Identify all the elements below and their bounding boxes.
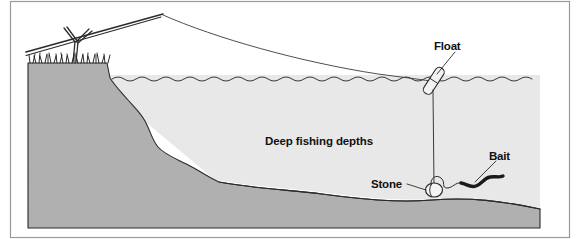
bait-label: Bait [489,150,510,162]
float-label: Float [434,40,461,52]
diagram-canvas: Float Bait Stone Deep fishing depths [0,0,580,239]
deep-fishing-depths-label: Deep fishing depths [265,135,373,147]
stone-label: Stone [371,178,402,190]
fishing-rig-diagram: Float Bait Stone Deep fishing depths [0,0,580,239]
stone-weight [426,183,443,197]
